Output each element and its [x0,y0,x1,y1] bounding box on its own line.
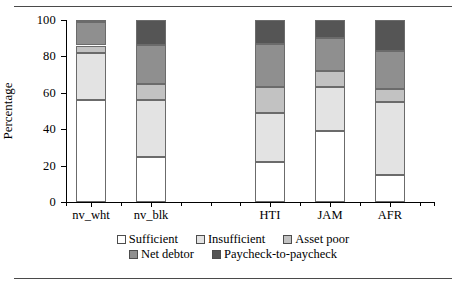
legend-swatch-icon [196,235,205,244]
bar-segment [255,87,285,112]
x-tick-minor [420,202,421,206]
bar-segment [76,20,106,22]
bar-segment [76,46,106,53]
x-tick-minor [360,202,361,206]
x-tick [390,202,391,207]
stacked-bar [76,20,106,202]
x-tick-minor [121,202,122,206]
y-tick: 20 [61,166,66,167]
y-tick: 80 [61,56,66,57]
legend-item: Asset poor [283,232,349,247]
bar-segment [76,53,106,100]
bar-segment [76,100,106,202]
x-tick-label: AFR [378,209,402,222]
y-axis-label: Percentage [0,82,16,139]
y-tick-label: 0 [50,196,56,209]
top-horizontal-rule [14,6,452,7]
bar-segment [315,131,345,202]
chart-figure: Percentage 020406080100 nv_whtnv_blkHTIJ… [0,0,466,291]
legend-label: Sufficient [129,232,178,246]
y-tick-label: 80 [43,50,56,63]
legend-row-primary: SufficientInsufficientAsset poor [0,232,466,247]
legend-swatch-icon [212,250,221,259]
x-tick-minor [434,202,435,206]
bar-segment [136,84,166,100]
x-tick [330,202,331,207]
x-tick-label: JAM [317,209,342,222]
legend-swatch-icon [129,250,138,259]
legend-item: Insufficient [196,232,265,247]
bar-segment [375,175,405,202]
x-tick [151,202,152,207]
legend-label: Insufficient [208,232,265,246]
bar-segment [255,113,285,162]
y-tick: 60 [61,93,66,94]
x-tick [270,202,271,207]
bar-segment [136,45,166,83]
bar-segment [255,20,285,44]
legend-label: Paycheck-to-paycheck [224,247,337,261]
x-tick-minor [300,202,301,206]
x-tick [91,202,92,207]
y-tick-label: 40 [43,123,56,136]
legend-swatch-icon [117,235,126,244]
bar-segment [136,100,166,156]
bar-segment [375,51,405,89]
x-tick-label: nv_wht [72,209,110,222]
bar-segment [136,157,166,203]
x-tick-minor [211,202,212,206]
legend-item: Sufficient [117,232,178,247]
bar-segment [375,89,405,102]
chart-legend: SufficientInsufficientAsset poor Net deb… [0,232,466,262]
bar-segment [315,38,345,71]
stacked-bar [315,20,345,202]
y-tick: 100 [61,20,66,21]
bar-segment [315,71,345,87]
x-tick-minor [181,202,182,206]
bar-segment [375,102,405,175]
bottom-horizontal-rule [14,278,452,279]
legend-row-secondary: Net debtorPaycheck-to-paycheck [0,247,466,262]
bar-segment [76,22,106,46]
x-tick-label: HTI [260,209,281,222]
stacked-bar [136,20,166,202]
legend-swatch-icon [283,235,292,244]
x-tick-minor [240,202,241,206]
y-tick: 40 [61,129,66,130]
y-tick-label: 20 [43,159,56,172]
bar-segment [255,162,285,202]
stacked-bar [375,20,405,202]
legend-item: Paycheck-to-paycheck [212,247,337,262]
plot-area: 020406080100 [66,20,434,202]
legend-label: Net debtor [141,247,194,261]
y-tick-label: 100 [37,14,56,27]
x-tick-minor [66,202,67,206]
bar-segment [255,44,285,88]
y-tick-label: 60 [43,86,56,99]
legend-label: Asset poor [295,232,349,246]
stacked-bar [255,20,285,202]
bar-segment [136,20,166,45]
bar-segment [375,20,405,51]
x-tick-label: nv_blk [134,209,169,222]
legend-item: Net debtor [129,247,194,262]
bar-segment [315,87,345,131]
bar-segment [315,20,345,38]
